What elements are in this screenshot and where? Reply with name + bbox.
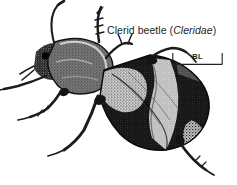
maxillary-palps	[20, 66, 34, 80]
hindleg-right-tarsus	[206, 170, 214, 175]
scale-bar-label: BL	[172, 52, 223, 61]
midleg-left	[30, 90, 62, 117]
elytra-group	[96, 52, 218, 154]
hindleg-left	[64, 96, 98, 150]
caption-taxon-name: Cleridae	[173, 24, 213, 36]
beetle-figure: Clerid beetle (Cleridae) BL	[0, 0, 237, 185]
midleg-left-tarsus	[18, 117, 30, 120]
hindleg-left-tarsus	[48, 150, 64, 156]
caption-common-name: Clerid beetle (	[107, 24, 173, 36]
left-antenna	[51, 3, 60, 46]
right-antenna-segments	[95, 18, 104, 34]
caption-close-paren: )	[213, 24, 217, 36]
foreleg-left-tarsus	[0, 89, 4, 90]
left-antenna-club	[58, 1, 64, 5]
figure-caption: Clerid beetle (Cleridae)	[107, 24, 216, 37]
